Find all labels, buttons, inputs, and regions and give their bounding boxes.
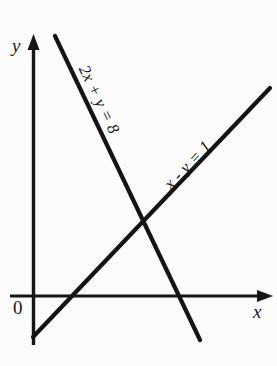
x-axis-label: x	[253, 301, 261, 323]
y-axis-label: y	[12, 35, 20, 57]
y-axis-arrowhead-icon	[28, 34, 40, 50]
origin-label: 0	[13, 297, 23, 319]
line-x-minus-y-equals-1	[33, 88, 270, 337]
graph-canvas	[0, 0, 277, 366]
graph-figure: y x 0 2x + y = 8 x - y = 1	[0, 0, 277, 366]
